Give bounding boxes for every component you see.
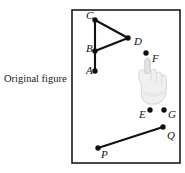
point-P[interactable]	[95, 145, 100, 150]
point-label-E: E	[138, 108, 146, 120]
point-Q[interactable]	[160, 124, 165, 129]
point-G[interactable]	[161, 107, 166, 112]
point-label-A: A	[85, 64, 93, 76]
point-label-P: P	[100, 148, 108, 160]
point-B[interactable]	[92, 48, 97, 53]
hand-index-finger	[145, 59, 150, 73]
point-label-C: C	[86, 9, 94, 21]
point-E[interactable]	[147, 107, 152, 112]
point-label-B: B	[86, 42, 93, 54]
point-label-F: F	[151, 52, 159, 64]
figure-container: Original figure ABCDEFGPQ	[0, 0, 185, 173]
point-label-G: G	[168, 108, 176, 120]
point-A[interactable]	[92, 68, 97, 73]
point-F[interactable]	[143, 50, 148, 55]
point-label-Q: Q	[167, 129, 175, 141]
geometry-figure: ABCDEFGPQ	[0, 0, 185, 173]
point-label-D: D	[133, 35, 142, 47]
point-D[interactable]	[125, 35, 130, 40]
